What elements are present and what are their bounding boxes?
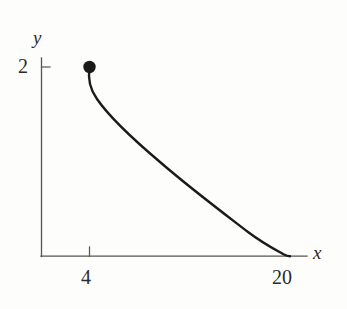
x-tick-label-4: 4: [81, 267, 91, 287]
figure-canvas: y x 2 4 20: [0, 0, 347, 309]
y-axis-label: y: [33, 28, 41, 47]
start-point-marker: [83, 61, 95, 73]
data-curve: [89, 68, 290, 256]
x-axis-label: x: [313, 243, 321, 262]
plot-area: [0, 0, 347, 309]
y-tick-label-2: 2: [18, 56, 28, 76]
x-tick-label-20: 20: [272, 267, 292, 287]
